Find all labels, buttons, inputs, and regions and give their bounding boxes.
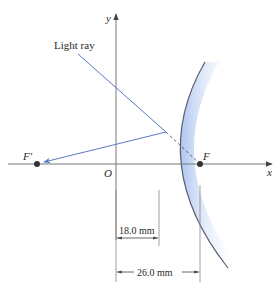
dim-label-26mm: 26.0 mm [137,267,173,278]
y-axis-label: y [105,12,111,24]
origin-label: O [104,167,112,179]
dim-label-18mm: 18.0 mm [119,225,155,236]
light-ray-label: Light ray [54,39,95,51]
diagram-canvas: y x O F F′ Light ray 18.0 mm 26.0 mm [0,0,280,297]
virtual-focal-point-label: F′ [22,150,33,162]
incident-ray [78,54,166,132]
x-axis-label: x [266,166,272,178]
focal-point-label: F [202,150,210,162]
reflected-ray [44,132,166,162]
convex-mirror [180,62,240,268]
virtual-focal-point-dot [34,161,40,167]
